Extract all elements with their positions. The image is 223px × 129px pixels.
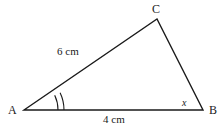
angle-arc-a-inner <box>55 95 58 110</box>
vertex-label-b: B <box>209 104 217 116</box>
angle-label-b: x <box>182 98 186 108</box>
side-length-label-ac: 6 cm <box>57 46 79 57</box>
vertex-label-c: C <box>152 3 160 15</box>
angle-arc-a-outer <box>60 93 64 110</box>
triangle-figure: A B C 6 cm 4 cm x <box>0 0 223 129</box>
triangle-svg <box>0 0 223 129</box>
vertex-label-a: A <box>8 104 17 116</box>
side-length-label-ab: 4 cm <box>103 114 125 125</box>
triangle-outline <box>24 19 203 110</box>
